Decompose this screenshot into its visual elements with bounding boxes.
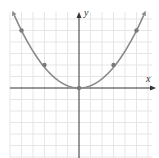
data-point: [134, 28, 138, 32]
grid-lines: [10, 12, 152, 158]
data-point: [19, 28, 23, 32]
y-axis-arrow-icon: [77, 12, 82, 18]
data-point: [77, 86, 81, 90]
x-axis-arrow-icon: [150, 86, 156, 91]
data-point: [111, 63, 115, 67]
y-axis-label: y: [84, 8, 88, 18]
coordinate-plane: [0, 0, 159, 158]
x-axis-label: x: [146, 74, 150, 84]
data-point: [42, 63, 46, 67]
